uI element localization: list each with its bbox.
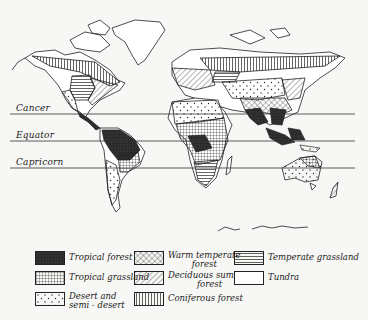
australia	[282, 156, 338, 198]
legend-item-temperate-grassland: Temperate grassland	[234, 251, 359, 265]
equator-label: Equator	[16, 130, 54, 140]
legend-label: Tundra	[268, 273, 299, 282]
legend-label: Coniferous forest	[168, 294, 243, 303]
africa	[168, 98, 232, 188]
southeast-asia-islands	[266, 128, 320, 152]
warm-temperate-forest-swatch	[134, 251, 164, 265]
north-america	[12, 20, 165, 130]
legend-item-tundra: Tundra	[234, 271, 299, 285]
tropic-of-cancer-label: Cancer	[16, 103, 50, 113]
temperate-grassland-swatch	[234, 251, 264, 265]
legend-label: Tropical forest	[69, 253, 132, 262]
legend-item-desert-semi-desert: Desert and semi - desert	[35, 292, 125, 309]
world-vegetation-map	[0, 0, 368, 240]
legend-item-coniferous-forest: Coniferous forest	[134, 292, 243, 306]
legend-label: Warm temperate forest	[168, 251, 240, 268]
deciduous-summer-forest-swatch	[134, 271, 164, 285]
legend-label: Temperate grassland	[268, 253, 359, 262]
legend-item-tropical-forest: Tropical forest	[35, 251, 132, 265]
antarctica-coast	[218, 226, 308, 231]
desert-semi-desert-swatch	[35, 292, 65, 306]
tropical-grassland-swatch	[35, 271, 65, 285]
tundra-swatch	[234, 271, 264, 285]
coniferous-forest-swatch	[134, 292, 164, 306]
tropical-forest-swatch	[35, 251, 65, 265]
legend-item-warm-temperate-forest: Warm temperate forest	[134, 251, 240, 268]
legend: Tropical forest Warm temperate forest Te…	[35, 251, 365, 311]
legend-label: Desert and semi - desert	[69, 292, 125, 309]
tropic-of-capricorn-label: Capricorn	[16, 157, 64, 167]
legend-item-tropical-grassland: Tropical grassland	[35, 271, 149, 285]
